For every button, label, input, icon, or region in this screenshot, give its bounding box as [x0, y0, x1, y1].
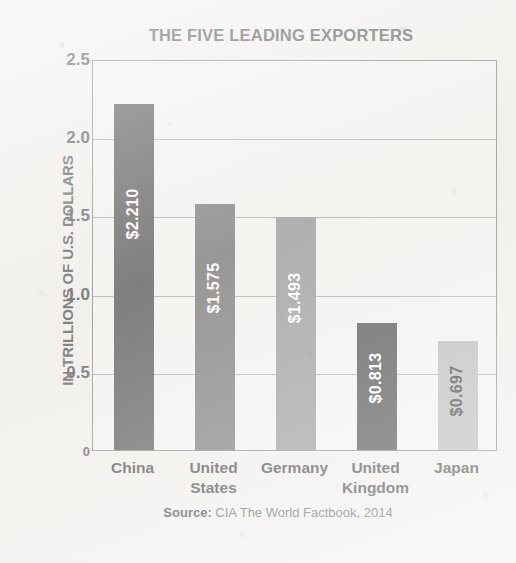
x-category-label-line: Kingdom	[335, 478, 416, 498]
x-category-label-line: Japan	[416, 458, 497, 478]
x-category-label-line: United	[335, 458, 416, 478]
x-category-label: Japan	[416, 458, 497, 478]
source-text: CIA The World Factbook, 2014	[215, 505, 392, 520]
x-category-label: Germany	[254, 458, 335, 478]
x-category-label-line: China	[92, 458, 173, 478]
y-tick-label: 1.5	[10, 206, 90, 226]
x-category-label: UnitedKingdom	[335, 458, 416, 498]
bar-value-label: $0.813	[368, 352, 386, 403]
source-note: Source: CIA The World Factbook, 2014	[0, 505, 516, 520]
y-tick-label: 1.0	[10, 285, 90, 305]
bar[interactable]: $0.697	[438, 341, 478, 450]
chart-title: THE FIVE LEADING EXPORTERS	[0, 26, 516, 45]
bar-value-label: $1.493	[287, 273, 305, 324]
bar-value-label: $0.697	[449, 366, 467, 417]
bar-value-label: $1.575	[206, 263, 224, 314]
x-category-label: UnitedStates	[173, 458, 254, 498]
source-label: Source:	[163, 505, 211, 520]
x-category-label-line: States	[173, 478, 254, 498]
bar[interactable]: $1.575	[195, 204, 235, 450]
chart-page: THE FIVE LEADING EXPORTERS IN TRILLIONS …	[0, 0, 516, 563]
bar[interactable]: $0.813	[357, 323, 397, 450]
y-tick-label: 0.5	[10, 363, 90, 383]
x-category-label: China	[92, 458, 173, 478]
y-tick-label: 2.5	[10, 50, 90, 70]
y-tick-label: 2.0	[10, 128, 90, 148]
y-tick-label: 0	[10, 444, 90, 459]
x-category-label-line: Germany	[254, 458, 335, 478]
bar[interactable]: $2.210	[114, 104, 154, 450]
x-category-label-line: United	[173, 458, 254, 478]
bar-value-label: $2.210	[125, 188, 143, 239]
plot-area: $2.210$1.575$1.493$0.813$0.697	[92, 60, 497, 451]
bar[interactable]: $1.493	[276, 217, 316, 451]
